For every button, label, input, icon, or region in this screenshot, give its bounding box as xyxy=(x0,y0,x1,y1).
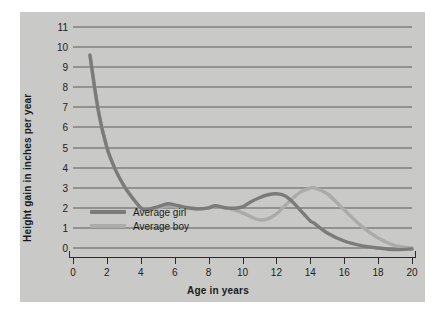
legend-item-average-girl: Average girl xyxy=(90,205,189,219)
y-tick-label-9: 9 xyxy=(62,62,68,73)
y-tick-label-1: 1 xyxy=(62,222,68,233)
x-tick-mark-14 xyxy=(310,257,311,264)
x-tick-mark-12 xyxy=(276,257,277,264)
y-tick-label-0: 0 xyxy=(62,243,68,254)
x-tick-mark-10 xyxy=(243,257,244,264)
legend-label: Average girl xyxy=(133,207,186,218)
x-tick-mark-2 xyxy=(107,257,108,264)
y-tick-label-2: 2 xyxy=(62,202,68,213)
x-tick-label-4: 4 xyxy=(138,267,144,278)
x-axis-left-cap xyxy=(69,251,70,258)
y-tick-label-8: 8 xyxy=(62,82,68,93)
y-axis-title: Height gain in inches per year xyxy=(22,94,33,242)
legend: Average girlAverage boy xyxy=(90,205,189,233)
y-tick-label-5: 5 xyxy=(62,142,68,153)
y-tick-label-4: 4 xyxy=(62,162,68,173)
legend-item-average-boy: Average boy xyxy=(90,219,189,233)
y-tick-label-6: 6 xyxy=(62,122,68,133)
y-tick-label-7: 7 xyxy=(62,102,68,113)
legend-swatch-icon xyxy=(90,210,126,214)
x-tick-label-2: 2 xyxy=(104,267,110,278)
x-tick-mark-20 xyxy=(412,257,413,264)
x-tick-mark-8 xyxy=(209,257,210,264)
x-tick-label-14: 14 xyxy=(305,267,316,278)
x-tick-label-18: 18 xyxy=(373,267,384,278)
x-tick-label-12: 12 xyxy=(271,267,282,278)
x-tick-mark-0 xyxy=(73,257,74,264)
x-tick-label-0: 0 xyxy=(70,267,76,278)
x-tick-label-20: 20 xyxy=(406,267,417,278)
y-tick-label-3: 3 xyxy=(62,182,68,193)
x-tick-label-6: 6 xyxy=(172,267,178,278)
x-tick-label-10: 10 xyxy=(237,267,248,278)
growth-rate-chart-figure: © Cengage Learning® Height gain in inche… xyxy=(0,0,436,315)
y-tick-label-11: 11 xyxy=(58,22,68,33)
x-axis-right-cap xyxy=(415,251,416,258)
x-axis-title: Age in years xyxy=(0,285,436,296)
x-tick-label-16: 16 xyxy=(339,267,350,278)
legend-label: Average boy xyxy=(133,221,189,232)
x-tick-mark-6 xyxy=(175,257,176,264)
y-tick-label-10: 10 xyxy=(57,42,68,53)
x-tick-mark-4 xyxy=(141,257,142,264)
x-tick-label-8: 8 xyxy=(206,267,212,278)
x-tick-mark-18 xyxy=(378,257,379,264)
x-tick-mark-16 xyxy=(344,257,345,264)
legend-swatch-icon xyxy=(90,224,126,228)
